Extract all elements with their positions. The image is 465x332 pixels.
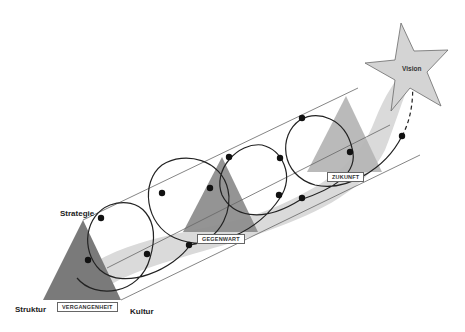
label-vision: Vision: [402, 65, 421, 72]
triangle-present: [183, 157, 258, 232]
label-struktur: Struktur: [15, 305, 46, 314]
rail-bottom: [121, 155, 420, 300]
phase-label-present: GEGENWART: [197, 234, 245, 244]
diagram-canvas: Strategie Struktur Kultur VERGANGENHEIT …: [0, 0, 465, 332]
phase-label-past: VERGANGENHEIT: [57, 302, 118, 312]
phase-label-future: ZUKUNFT: [327, 172, 364, 182]
diagram-svg: [0, 0, 465, 332]
label-strategie: Strategie: [60, 209, 94, 218]
progress-ribbon: [95, 70, 412, 285]
label-kultur: Kultur: [130, 307, 154, 316]
